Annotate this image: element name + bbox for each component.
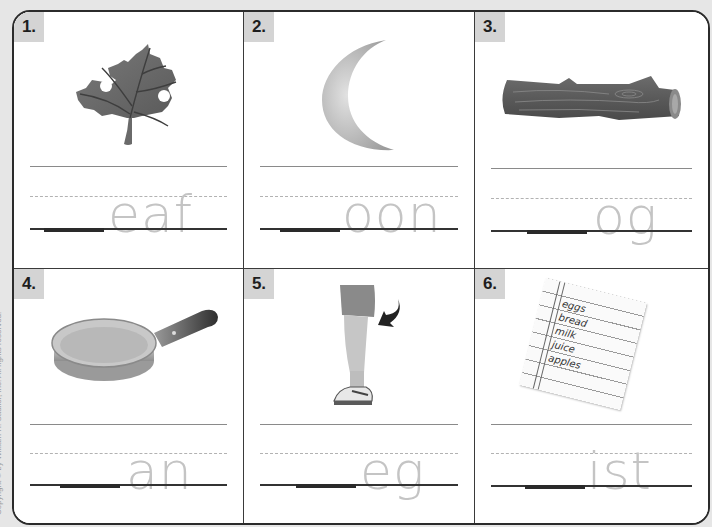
exercise-grid: 1. <box>14 12 708 523</box>
answer-blank[interactable] <box>296 484 356 488</box>
answer-blank[interactable] <box>280 228 340 232</box>
writing-line-top <box>491 424 692 425</box>
answer-blank[interactable] <box>525 485 585 489</box>
item-number: 2. <box>244 12 274 42</box>
writing-line-baseline <box>260 484 458 486</box>
answer-blank[interactable] <box>60 484 120 488</box>
leaf-icon <box>72 40 192 152</box>
writing-line-top <box>260 166 458 167</box>
answer-blank[interactable] <box>44 228 104 232</box>
trace-letters: an <box>126 445 193 497</box>
trace-letters: eaf <box>108 188 193 240</box>
writing-line-midline <box>260 453 458 454</box>
trace-letters: og <box>593 190 658 242</box>
writing-line-top <box>260 424 458 425</box>
item-number: 6. <box>475 269 505 299</box>
writing-line-top <box>30 166 227 167</box>
trace-letters: ist <box>587 445 652 497</box>
moon-icon <box>316 34 406 154</box>
writing-line-top <box>491 168 692 169</box>
worksheet: 1. <box>12 10 710 525</box>
writing-line-midline <box>491 198 692 199</box>
exercise-cell-5: 5. eg <box>244 269 475 523</box>
frying-pan-icon <box>46 303 226 389</box>
item-number: 5. <box>244 269 274 299</box>
item-number: 3. <box>475 12 505 42</box>
item-number: 4. <box>14 269 44 299</box>
exercise-cell-2: 2. oon <box>244 12 475 269</box>
copyright-notice: Copyright © by William H. Sadlier, Inc. … <box>0 245 3 515</box>
log-icon <box>499 72 689 128</box>
item-number: 1. <box>14 12 44 42</box>
shopping-list-picture: eggs bread milk juice apples <box>519 278 647 410</box>
writing-line-baseline <box>491 485 692 487</box>
exercise-cell-6: 6. eggs bread milk juice apples ist <box>475 269 708 523</box>
trace-letters: oon <box>342 188 442 240</box>
trace-letters: eg <box>360 445 425 497</box>
writing-line-baseline <box>491 230 692 232</box>
leg-icon <box>328 283 412 409</box>
answer-blank[interactable] <box>527 230 587 234</box>
exercise-cell-4: 4. an <box>14 269 244 523</box>
exercise-cell-3: 3. og <box>475 12 708 269</box>
exercise-cell-1: 1. <box>14 12 244 269</box>
writing-line-top <box>30 424 227 425</box>
